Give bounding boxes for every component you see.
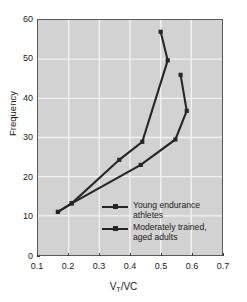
- data-point-marker: [117, 158, 121, 162]
- data-point-marker: [139, 163, 143, 167]
- x-axis-tick-mark: [192, 253, 193, 256]
- y-axis-tick-mark: [37, 256, 40, 257]
- data-point-marker: [179, 73, 183, 77]
- y-axis-tick-label: 20: [11, 173, 33, 182]
- x-axis-tick-label: 0.1: [25, 262, 49, 271]
- y-axis-tick-label: 40: [11, 94, 33, 103]
- data-point-marker: [140, 140, 144, 144]
- x-axis-title-rest: /VC: [121, 281, 138, 292]
- x-axis-title: VT/VC: [0, 281, 247, 293]
- x-axis-tick-mark: [99, 253, 100, 256]
- legend-label: Moderately trained, aged adults: [133, 223, 207, 242]
- x-axis-tick-label: 0.6: [180, 262, 204, 271]
- legend-item-young-endurance-athletes: Young endurance athletes: [102, 201, 222, 220]
- series-line: [58, 32, 168, 212]
- data-point-marker: [70, 201, 74, 205]
- legend-item-moderately-trained-aged-adults: Moderately trained, aged adults: [102, 223, 222, 242]
- x-axis-tick-mark: [37, 253, 38, 256]
- data-point-marker: [173, 137, 177, 141]
- y-axis-tick-label: 10: [11, 212, 33, 221]
- data-point-marker: [185, 109, 189, 113]
- chart-figure: Frequency 0102030405060 Young endurance …: [0, 0, 247, 302]
- legend-label: Young endurance athletes: [133, 201, 222, 220]
- x-axis-tick-label: 0.7: [211, 262, 235, 271]
- x-axis-tick-mark: [223, 253, 224, 256]
- y-axis-tick-label: 0: [11, 252, 33, 261]
- x-axis-tick-mark: [161, 253, 162, 256]
- x-axis-tick-label: 0.2: [56, 262, 80, 271]
- x-axis-tick-label: 0.5: [149, 262, 173, 271]
- data-series: [56, 73, 189, 214]
- chart-legend: Young endurance athletes Moderately trai…: [102, 201, 222, 245]
- y-axis-tick-label: 50: [11, 54, 33, 63]
- y-axis-tick-label: 30: [11, 133, 33, 142]
- y-axis-tick-label: 60: [11, 15, 33, 24]
- plot-area: Young endurance athletes Moderately trai…: [37, 19, 223, 256]
- legend-marker-icon: [102, 202, 128, 212]
- legend-marker-icon: [102, 224, 128, 234]
- x-axis-tick-label: 0.4: [118, 262, 142, 271]
- x-axis-tick-label: 0.3: [87, 262, 111, 271]
- data-point-marker: [56, 210, 60, 214]
- data-point-marker: [159, 30, 163, 34]
- x-axis-tick-mark: [130, 253, 131, 256]
- data-series: [56, 30, 170, 214]
- series-line: [58, 75, 187, 212]
- data-point-marker: [166, 58, 170, 62]
- x-axis-tick-mark: [68, 253, 69, 256]
